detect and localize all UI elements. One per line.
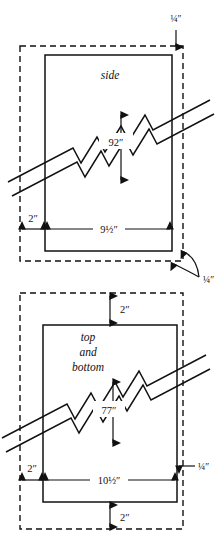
dim-label-margin-left-top-bottom: 2″ bbox=[27, 463, 37, 474]
figure-side-panel: 92″ side ¼″ 2″ 9½″ ¼″ bbox=[8, 14, 214, 285]
figure-top-bottom-panel: 2″ top and bottom 77″ 2″ 10½″ ¼″ bbox=[2, 293, 210, 529]
dim-label-width-top-bottom: 10½″ bbox=[98, 475, 121, 486]
dim-label-width-side: 9½″ bbox=[100, 224, 118, 235]
part-label-top-bottom-line2: and bbox=[79, 346, 97, 358]
dim-label-margin-top: 2″ bbox=[120, 304, 130, 315]
dim-label-corner-gap-side: ¼″ bbox=[203, 275, 214, 285]
dim-label-height-side: 92″ bbox=[109, 137, 124, 148]
leader-corner-gap-lower-side bbox=[174, 264, 199, 277]
dim-label-right-gap: ¼″ bbox=[198, 462, 209, 472]
part-label-top-bottom-line1: top bbox=[81, 331, 96, 344]
part-label-side: side bbox=[101, 69, 120, 81]
dim-label-margin-bottom: 2″ bbox=[120, 512, 130, 523]
dim-label-margin-left-side: 2″ bbox=[28, 213, 38, 224]
break-symbol-lower-top-bottom bbox=[2, 355, 206, 438]
dim-label-top-gap-side: ¼″ bbox=[170, 14, 181, 24]
cutting-diagram: 92″ side ¼″ 2″ 9½″ ¼″ bbox=[0, 0, 218, 551]
part-label-top-bottom-line3: bottom bbox=[72, 361, 104, 373]
diagram-canvas: 92″ side ¼″ 2″ 9½″ ¼″ bbox=[0, 0, 218, 551]
dim-label-height-top-bottom: 77″ bbox=[102, 405, 117, 416]
